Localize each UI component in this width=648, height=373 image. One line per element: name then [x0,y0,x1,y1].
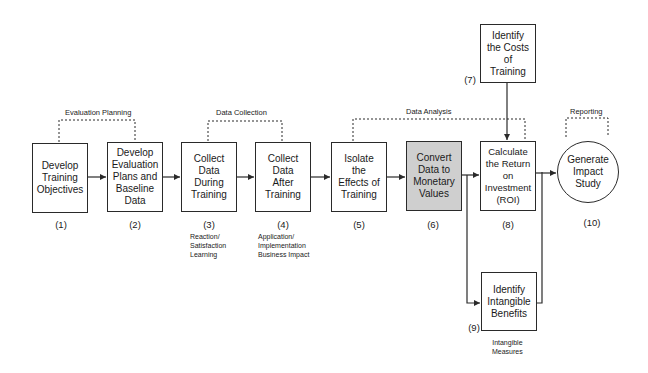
step-identify-intangible-benefits: Identify Intangible Benefits [481,272,537,331]
phase-label-data-collection: Data Collection [216,108,267,117]
step-calculate-roi: Calculate the Return on Investment (ROI) [480,141,536,211]
step-number-5: (5) [350,219,368,230]
step-number-10: (10) [580,217,604,228]
note-step3-measures: Reaction/ Satisfaction Learning [190,232,226,259]
step-isolate-effects: Isolate the Effects of Training [331,142,387,212]
step-identify-costs: Identify the Costs of Training [480,24,536,83]
step-number-8: (8) [499,219,517,230]
step-number-3: (3) [200,219,218,230]
step-collect-data-during-training: Collect Data During Training [181,142,237,212]
phase-label-reporting: Reporting [570,107,603,116]
phase-label-evaluation-planning: Evaluation Planning [65,108,131,117]
step-develop-evaluation-plans: Develop Evaluation Plans and Baseline Da… [107,142,163,212]
step-number-6: (6) [424,219,442,230]
connector-lines [0,0,648,373]
note-step9-measures: Intangible Measures [492,338,523,356]
step-number-4: (4) [274,219,292,230]
step-number-1: (1) [52,219,70,230]
step-number-2: (2) [126,219,144,230]
step-collect-data-after-training: Collect Data After Training [255,142,311,212]
step-develop-training-objectives: Develop Training Objectives [32,143,88,213]
step-generate-impact-study: Generate Impact Study [557,141,619,203]
step-number-7: (7) [461,74,479,85]
note-step4-measures: Application/ Implementation Business Imp… [258,232,309,259]
step-convert-to-monetary-values: Convert Data to Monetary Values [406,141,462,211]
step-number-9: (9) [465,322,483,333]
phase-label-data-analysis: Data Analysis [406,107,451,116]
